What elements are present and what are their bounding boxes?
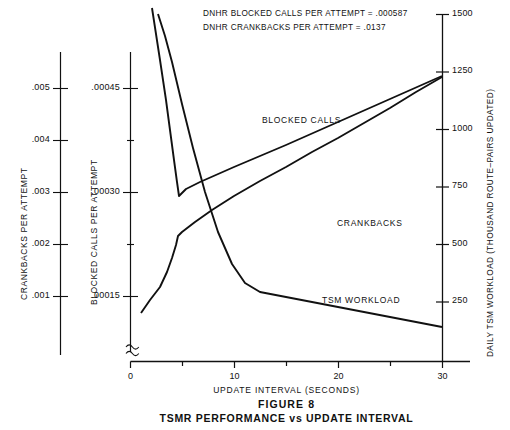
x-axis-ticks <box>131 362 443 369</box>
chart-figure <box>0 0 510 430</box>
crankbacks-tick-label-0: .005 <box>5 82 50 92</box>
blocked-tick-label-1: .00030 <box>62 186 120 196</box>
x-axis-title: UPDATE INTERVAL (SECONDS) <box>130 385 443 395</box>
x-tick-label-1: 10 <box>219 371 250 381</box>
workload-tick-label-5: 250 <box>452 295 484 305</box>
figure-title: TSMR PERFORMANCE vs UPDATE INTERVAL <box>75 412 498 424</box>
curve-blocked-calls <box>141 77 442 313</box>
crankbacks-tick-label-4: .001 <box>5 290 50 300</box>
crankbacks-tick-label-2: .003 <box>5 186 50 196</box>
curve-label-tsm-workload: TSM WORKLOAD <box>322 295 400 305</box>
annotation-dnhr-blocked-calls: DNHR BLOCKED CALLS PER ATTEMPT = .000587 <box>203 9 408 18</box>
workload-axis-title: DAILY TSM WORKLOAD (THOUSAND ROUTE–PAIRS… <box>486 89 495 357</box>
blocked-axis-break-icon <box>126 345 139 349</box>
workload-tick-label-4: 500 <box>452 238 484 248</box>
curve-label-blocked-calls: BLOCKED CALLS <box>262 115 341 125</box>
annotation-dnhr-crankbacks: DNHR CRANKBACKS PER ATTEMPT = .0137 <box>203 23 386 32</box>
blocked-tick-label-0: .00045 <box>62 82 120 92</box>
workload-tick-label-2: 1000 <box>452 123 484 133</box>
crankbacks-tick-label-1: .004 <box>5 134 50 144</box>
workload-tick-label-0: 1500 <box>452 8 484 18</box>
figure-number: FIGURE 8 <box>130 398 443 410</box>
workload-tick-label-3: 750 <box>452 180 484 190</box>
blocked-calls-axis-title: BLOCKED CALLS PER ATTEMPT <box>89 159 99 305</box>
x-tick-label-3: 30 <box>427 371 458 381</box>
x-tick-label-2: 20 <box>323 371 354 381</box>
x-axis-break-icon <box>126 351 139 355</box>
x-tick-label-0: 0 <box>115 371 146 381</box>
crankbacks-tick-label-3: .002 <box>5 238 50 248</box>
workload-tick-label-1: 1250 <box>452 65 484 75</box>
blocked-tick-label-2: .00015 <box>62 290 120 300</box>
curve-label-crankbacks: CRANKBACKS <box>337 218 403 228</box>
curve-tsm-workload <box>158 14 442 327</box>
